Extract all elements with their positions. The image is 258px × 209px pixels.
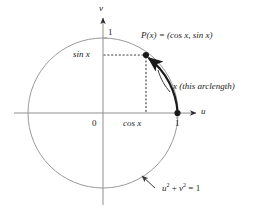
origin-label: 0 (92, 119, 97, 128)
u-axis-label: u (201, 107, 206, 116)
figure-canvas (0, 0, 258, 209)
u-axis-tick-label: 1 (175, 119, 180, 128)
circle-equation-plus: + (170, 183, 180, 193)
equation-leader (142, 176, 155, 188)
point-p-dot (143, 52, 149, 58)
arclength-label: x (this arclength) (173, 82, 235, 91)
unit-circle-figure: v u 1 0 1 P(x) = (cos x, sin x) sin x co… (0, 0, 258, 209)
cos-label: cos x (123, 119, 141, 128)
v-axis-tick-label: 1 (108, 28, 113, 37)
circle-equation-rhs: = 1 (186, 183, 200, 193)
sin-label: sin x (73, 50, 90, 59)
v-axis-label: v (99, 4, 103, 13)
circle-equation-label: u2 + v2 = 1 (162, 182, 200, 193)
point-one-dot (174, 110, 180, 116)
point-p-label: P(x) = (cos x, sin x) (141, 31, 213, 40)
